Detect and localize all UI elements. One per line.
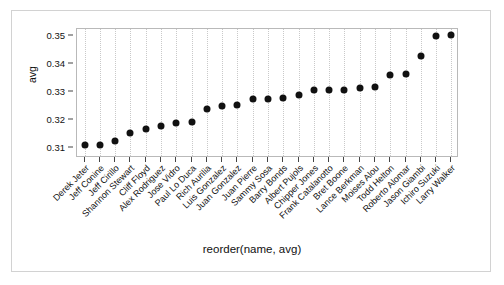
y-tick-mark	[68, 119, 73, 120]
y-tick-label: 0.34	[47, 58, 66, 69]
x-tick-mark	[405, 157, 406, 162]
x-tick-mark	[191, 157, 192, 162]
data-point	[173, 119, 180, 126]
data-point	[280, 94, 287, 101]
plot-panel	[76, 28, 458, 157]
data-point	[341, 86, 348, 93]
y-tick-label: 0.31	[47, 142, 66, 153]
x-tick-mark	[129, 157, 130, 162]
y-axis: 0.310.320.330.340.35	[0, 28, 76, 157]
y-axis-title: avg	[26, 66, 38, 83]
data-point	[112, 138, 119, 145]
x-tick-mark	[343, 157, 344, 162]
data-point	[158, 122, 165, 129]
y-tick-mark	[68, 147, 73, 148]
x-axis-tick-labels: Derek JeterJeff ConineJeff CirilloShanno…	[76, 163, 458, 235]
x-tick-mark	[84, 157, 85, 162]
x-tick-mark	[389, 157, 390, 162]
x-tick-mark	[114, 157, 115, 162]
x-tick-mark	[267, 157, 268, 162]
x-tick-mark	[435, 157, 436, 162]
data-point	[326, 87, 333, 94]
x-tick-mark	[420, 157, 421, 162]
x-tick-mark	[252, 157, 253, 162]
x-tick-mark	[145, 157, 146, 162]
x-tick-mark	[99, 157, 100, 162]
y-tick-label: 0.35	[47, 30, 66, 41]
y-tick-mark	[68, 91, 73, 92]
data-point	[387, 71, 394, 78]
x-tick-mark	[313, 157, 314, 162]
data-point	[310, 87, 317, 94]
data-point	[448, 31, 455, 38]
data-point	[96, 142, 103, 149]
x-tick-mark	[298, 157, 299, 162]
x-tick-mark	[359, 157, 360, 162]
data-point	[234, 102, 241, 109]
data-points-layer	[77, 29, 457, 156]
data-point	[203, 105, 210, 112]
x-tick-mark	[450, 157, 451, 162]
x-tick-mark	[160, 157, 161, 162]
data-point	[417, 52, 424, 59]
data-point	[219, 102, 226, 109]
x-tick-mark	[175, 157, 176, 162]
data-point	[371, 84, 378, 91]
y-tick-label: 0.32	[47, 114, 66, 125]
y-tick-mark	[68, 35, 73, 36]
x-tick-mark	[282, 157, 283, 162]
x-tick-mark	[221, 157, 222, 162]
x-axis-title: reorder(name, avg)	[0, 243, 504, 255]
data-point	[249, 96, 256, 103]
x-tick-mark	[328, 157, 329, 162]
data-point	[142, 125, 149, 132]
data-point	[81, 142, 88, 149]
data-point	[188, 118, 195, 125]
data-point	[356, 85, 363, 92]
x-tick-mark	[374, 157, 375, 162]
data-point	[295, 91, 302, 98]
y-tick-mark	[68, 63, 73, 64]
data-point	[265, 95, 272, 102]
x-tick-mark	[206, 157, 207, 162]
data-point	[127, 129, 134, 136]
data-point	[433, 32, 440, 39]
x-tick-mark	[236, 157, 237, 162]
data-point	[402, 71, 409, 78]
y-tick-label: 0.33	[47, 86, 66, 97]
chart-screenshot: 0.310.320.330.340.35 avg Derek JeterJeff…	[0, 0, 504, 285]
